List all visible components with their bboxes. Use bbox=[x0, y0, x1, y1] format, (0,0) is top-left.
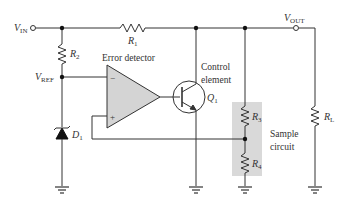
transistor-q1-arrow bbox=[190, 105, 196, 110]
opamp-minus-sign: − bbox=[110, 73, 115, 83]
resistor-r2 bbox=[58, 44, 66, 64]
label-error-detector: Error detector bbox=[102, 53, 156, 63]
junction-vref bbox=[60, 75, 64, 79]
label-q1: Q1 bbox=[207, 92, 218, 105]
resistor-rl bbox=[311, 106, 319, 126]
ground-icon bbox=[189, 187, 203, 193]
junction-sample-mid bbox=[243, 137, 247, 141]
zener-d1-body bbox=[56, 128, 68, 139]
ground-icon bbox=[55, 187, 69, 193]
label-d1: D1 bbox=[71, 129, 83, 142]
label-r2: R2 bbox=[69, 48, 80, 61]
junction-sample-top bbox=[243, 26, 247, 30]
resistor-r1 bbox=[120, 24, 145, 32]
voltage-regulator-schematic: VIN VOUT VREF R1 R2 R3 R4 RL D1 Q1 Error… bbox=[0, 0, 346, 203]
label-vref: VREF bbox=[35, 71, 54, 84]
label-rl: RL bbox=[323, 111, 334, 124]
vout-terminal bbox=[294, 26, 299, 31]
label-control-line2: element bbox=[201, 75, 231, 85]
transistor-q1-collector bbox=[182, 84, 196, 92]
label-sample-line1: Sample bbox=[270, 129, 299, 139]
label-vin: VIN bbox=[14, 22, 28, 35]
vin-terminal bbox=[31, 26, 36, 31]
ground-icon bbox=[308, 187, 322, 193]
label-sample-line2: circuit bbox=[270, 142, 295, 152]
junction-q1-collector bbox=[194, 26, 198, 30]
junction-r2-top bbox=[60, 26, 64, 30]
opamp-plus-sign: + bbox=[110, 112, 115, 122]
label-vout: VOUT bbox=[284, 12, 305, 25]
label-r1: R1 bbox=[127, 35, 138, 48]
ground-icon bbox=[238, 187, 252, 193]
label-control-line1: Control bbox=[201, 62, 230, 72]
